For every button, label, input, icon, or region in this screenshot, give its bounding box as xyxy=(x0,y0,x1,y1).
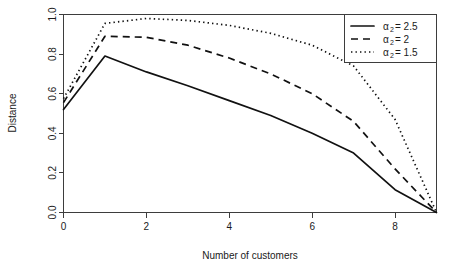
x-tick-label-6: 6 xyxy=(309,221,315,232)
legend-label-value-2: = 1.5 xyxy=(395,47,418,58)
x-tick-label-8: 8 xyxy=(392,221,398,232)
series-line-alpha2-2.5 xyxy=(64,56,437,212)
y-tick-label-0.0: 0.0 xyxy=(47,205,58,219)
legend-label-value-0: = 2.5 xyxy=(395,21,418,32)
legend-label-symbol-2: α xyxy=(383,47,389,58)
y-axis-title: Distance xyxy=(7,93,18,132)
y-tick-label-0.6: 0.6 xyxy=(47,86,58,100)
y-tick-label-0.2: 0.2 xyxy=(47,166,58,180)
legend[interactable]: α 2 = 2.5 α 2 = 2 α 2 = 1.5 xyxy=(345,15,437,63)
x-axis-ticks xyxy=(64,213,396,218)
legend-label-subscript-1: 2 xyxy=(390,39,394,46)
x-tick-label-2: 2 xyxy=(144,221,150,232)
x-tick-label-0: 0 xyxy=(61,221,67,232)
legend-label-symbol-0: α xyxy=(383,21,389,32)
chart-canvas: 0.00.20.40.60.81.0 02468 Number of custo… xyxy=(0,0,453,275)
legend-label-subscript-2: 2 xyxy=(390,52,394,59)
y-tick-label-1.0: 1.0 xyxy=(47,7,58,21)
legend-label-subscript-0: 2 xyxy=(390,26,394,33)
legend-label-symbol-1: α xyxy=(383,34,389,45)
y-axis-ticks xyxy=(59,15,64,213)
y-tick-label-0.8: 0.8 xyxy=(47,47,58,61)
x-axis-tick-labels: 02468 xyxy=(61,221,399,232)
x-axis-title: Number of customers xyxy=(202,250,298,261)
x-tick-label-4: 4 xyxy=(226,221,232,232)
y-tick-label-0.4: 0.4 xyxy=(47,126,58,140)
y-axis-tick-labels: 0.00.20.40.60.81.0 xyxy=(47,7,58,219)
legend-label-value-1: = 2 xyxy=(395,34,410,45)
chart-figure: 0.00.20.40.60.81.0 02468 Number of custo… xyxy=(0,0,453,275)
